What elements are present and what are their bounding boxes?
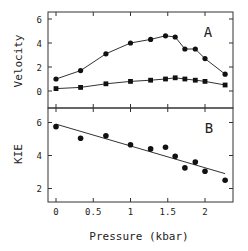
- data-point-circle: [182, 46, 187, 51]
- data-point-circle: [193, 46, 198, 51]
- data-point-circle: [148, 146, 154, 152]
- data-point-square: [78, 85, 83, 90]
- y-tick-label: 2: [37, 184, 42, 194]
- fit-line: [56, 124, 225, 173]
- data-point-circle: [78, 135, 84, 141]
- y-tick-label: 4: [37, 39, 42, 49]
- pressure-chart: 0246 24600.511.52 A B Velocity KIE Press…: [0, 0, 248, 251]
- data-point-circle: [202, 56, 207, 61]
- x-tick-label: 0.5: [85, 207, 101, 217]
- data-point-square: [148, 78, 153, 83]
- data-point-circle: [53, 124, 59, 130]
- data-point-square: [54, 86, 59, 91]
- y-axis-label-velocity: Velocity: [12, 34, 25, 87]
- x-tick-label: 1.5: [160, 207, 176, 217]
- data-point-circle: [163, 33, 168, 38]
- data-point-square: [128, 79, 133, 84]
- data-point-circle: [222, 177, 228, 183]
- data-point-circle: [202, 168, 208, 174]
- x-tick-label: 1: [128, 207, 133, 217]
- y-tick-label: 0: [37, 87, 42, 97]
- y-axis-label-kie: KIE: [12, 144, 25, 164]
- y-tick-label: 6: [37, 15, 42, 25]
- data-point-square: [203, 79, 208, 84]
- data-point-circle: [193, 159, 199, 165]
- panel-b-label: B: [205, 120, 213, 136]
- data-point-circle: [173, 34, 178, 39]
- data-point-circle: [128, 142, 134, 148]
- data-point-circle: [78, 68, 83, 73]
- data-point-square: [193, 78, 198, 83]
- data-point-square: [104, 81, 109, 86]
- data-point-square: [223, 83, 228, 88]
- y-tick-label: 4: [37, 151, 42, 161]
- data-point-circle: [53, 76, 58, 81]
- y-tick-label: 2: [37, 63, 42, 73]
- data-point-circle: [103, 51, 108, 56]
- y-tick-label: 6: [37, 118, 42, 128]
- data-point-circle: [223, 72, 228, 77]
- x-tick-label: 0: [53, 207, 58, 217]
- panel-b: 24600.511.52: [37, 108, 233, 217]
- data-point-circle: [128, 40, 133, 45]
- data-point-circle: [172, 154, 178, 160]
- data-point-square: [173, 75, 178, 80]
- data-point-circle: [103, 133, 109, 139]
- x-tick-label: 2: [202, 207, 207, 217]
- data-point-circle: [182, 165, 188, 171]
- x-axis-label: Pressure (kbar): [89, 230, 188, 243]
- data-point-circle: [163, 144, 169, 150]
- data-point-square: [182, 77, 187, 82]
- data-point-circle: [148, 37, 153, 42]
- panel-a-label: A: [204, 24, 213, 40]
- data-point-square: [163, 77, 168, 82]
